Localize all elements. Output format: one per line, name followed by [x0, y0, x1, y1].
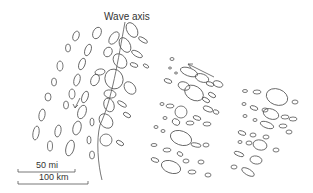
scale-label-miles: 50 mi: [36, 160, 58, 170]
scale-label-km: 100 km: [39, 172, 69, 182]
motion-arrow: [73, 98, 80, 108]
left-cells: [32, 26, 103, 159]
wave-axis-label: Wave axis: [104, 11, 150, 22]
cloud-wave-diagram: Wave axis 50 mi 100 km: [0, 0, 313, 193]
middle-cells: [151, 58, 224, 178]
right-cells: [231, 86, 298, 178]
wind-direction-arrow: [188, 64, 214, 77]
